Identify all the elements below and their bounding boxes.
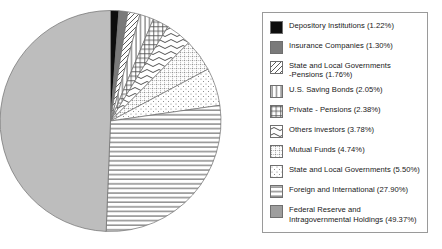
legend-item-others-investors: Others investors (3.78%)	[270, 124, 421, 139]
dotted-grid-swatch	[270, 145, 283, 158]
pie-slice	[0, 11, 110, 232]
solid-gray-swatch	[270, 41, 283, 54]
legend-label-others-investors: Others investors (3.78%)	[289, 124, 374, 134]
legend-label-insurance-companies: Insurance Companies (1.30%)	[289, 40, 393, 50]
horizontal-lines-swatch	[270, 185, 283, 198]
legend-label-private-pensions: Private - Pensions (2.38%)	[289, 104, 381, 114]
pie-chart-svg	[0, 8, 222, 240]
pie-chart-figure: Depository Institutions (1.22%) Insuranc…	[0, 0, 442, 249]
legend-item-federal-reserve: Federal Reserve and Intragovernmental Ho…	[270, 204, 421, 223]
crosshatch-grid-swatch	[270, 105, 283, 118]
pie-chart-area	[0, 8, 222, 240]
pie-slice	[106, 105, 221, 231]
chart-legend: Depository Institutions (1.22%) Insuranc…	[262, 12, 428, 233]
legend-item-insurance-companies: Insurance Companies (1.30%)	[270, 40, 421, 55]
legend-item-private-pensions: Private - Pensions (2.38%)	[270, 104, 421, 119]
legend-item-us-saving-bonds: U.S. Saving Bonds (2.05%)	[270, 84, 421, 99]
legend-label-federal-reserve: Federal Reserve and Intragovernmental Ho…	[289, 204, 417, 223]
solid-black-swatch	[270, 21, 283, 34]
wavy-lines-swatch	[270, 125, 283, 138]
legend-item-depository-institutions: Depository Institutions (1.22%)	[270, 20, 421, 35]
legend-label-depository-institutions: Depository Institutions (1.22%)	[289, 20, 394, 30]
legend-item-state-local-governments-pensions: State and Local Governments -Pensions (1…	[270, 60, 421, 79]
solid-light-gray-swatch	[270, 205, 283, 218]
legend-label-state-local-governments-pensions: State and Local Governments -Pensions (1…	[289, 60, 391, 79]
legend-label-state-local-governments: State and Local Governments (5.50%)	[289, 164, 420, 174]
legend-label-mutual-funds: Mutual Funds (4.74%)	[289, 144, 365, 154]
legend-item-mutual-funds: Mutual Funds (4.74%)	[270, 144, 421, 159]
legend-label-us-saving-bonds: U.S. Saving Bonds (2.05%)	[289, 84, 383, 94]
legend-item-foreign-and-international: Foreign and International (27.90%)	[270, 184, 421, 199]
legend-label-foreign-and-international: Foreign and International (27.90%)	[289, 184, 408, 194]
diagonal-hatch-swatch	[270, 61, 283, 74]
pie-slices-group	[0, 10, 221, 231]
legend-item-state-local-governments: State and Local Governments (5.50%)	[270, 164, 421, 179]
sparse-dots-swatch	[270, 165, 283, 178]
vertical-lines-swatch	[270, 85, 283, 98]
